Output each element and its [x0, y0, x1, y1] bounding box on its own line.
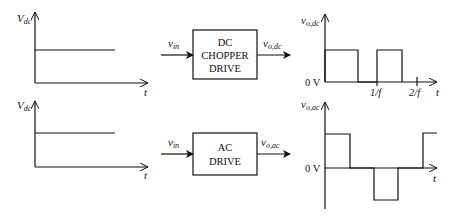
- zero-volt-label: 0 V: [305, 163, 321, 174]
- top-output-arrow: vo,dc: [257, 37, 290, 55]
- bottom-output-arrow: vo,ac: [257, 136, 290, 154]
- pwm-pulses: [325, 50, 402, 82]
- x-axis-label: t: [144, 169, 148, 181]
- ac-drive-block: AC DRIVE: [193, 133, 257, 175]
- y-axis-label: vo,dc: [301, 14, 320, 28]
- block-label-line1: DC: [218, 37, 233, 48]
- y-axis-label: vo,ac: [301, 98, 320, 112]
- block-label-line2: CHOPPER: [201, 50, 248, 61]
- bottom-output-plot: vo,ac 0 V t: [301, 98, 437, 209]
- x-axis-label: t: [144, 86, 148, 98]
- top-output-plot: vo,dc 0 V 1/f 2/f t: [301, 14, 440, 98]
- x-axis-label: t: [436, 86, 440, 98]
- bottom-input-plot: Vdc t: [17, 99, 148, 181]
- bottom-input-arrow: vin: [161, 136, 193, 154]
- block-rect: [193, 133, 257, 175]
- x-tick-label-2f: 2/f: [409, 87, 422, 98]
- x-axis-label: t: [433, 172, 437, 184]
- output-signal-label: vo,dc: [263, 37, 282, 51]
- x-tick-label-1f: 1/f: [370, 87, 383, 98]
- block-label-line1: AC: [218, 142, 233, 153]
- y-axis-label: Vdc: [17, 99, 32, 113]
- input-signal-label: vin: [168, 37, 179, 51]
- y-axis-label: Vdc: [17, 12, 32, 26]
- block-label-line2: DRIVE: [209, 156, 241, 167]
- drive-comparison-diagram: Vdc t vin DC CHOPPER DRIVE vo,dc vo,dc 0…: [0, 0, 455, 217]
- output-signal-label: vo,ac: [261, 136, 280, 150]
- zero-volt-label: 0 V: [305, 77, 321, 88]
- block-label-line3: DRIVE: [209, 63, 241, 74]
- dc-chopper-drive-block: DC CHOPPER DRIVE: [193, 30, 257, 79]
- ac-square-wave: [325, 133, 437, 200]
- input-signal-label: vin: [168, 136, 179, 150]
- top-input-arrow: vin: [161, 37, 193, 55]
- top-input-plot: Vdc t: [17, 12, 148, 98]
